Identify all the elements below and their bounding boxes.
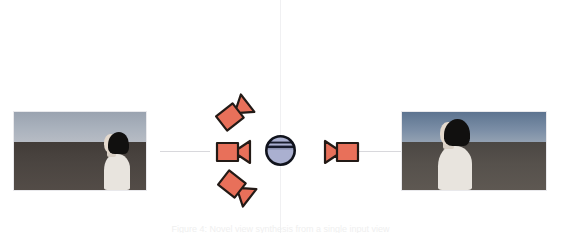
camera-top-left-icon[interactable] <box>211 90 258 135</box>
person-figure <box>98 118 142 190</box>
input-view-thumbnail <box>14 112 146 190</box>
person-hair <box>108 132 129 154</box>
figure-caption: Figure 4: Novel view synthesis from a si… <box>0 224 561 233</box>
camera-bottom-left-icon[interactable] <box>213 165 260 210</box>
vertical-divider <box>280 0 281 233</box>
person-hair <box>444 119 470 146</box>
figure-root: Figure 4: Novel view synthesis from a si… <box>0 0 561 233</box>
person-body <box>104 154 130 190</box>
person-body <box>438 146 472 190</box>
camera-middle-left-icon[interactable] <box>215 138 253 166</box>
person-figure <box>430 112 488 190</box>
camera-right-icon[interactable] <box>322 138 360 166</box>
scene-sphere-icon[interactable] <box>264 134 297 167</box>
output-view-thumbnail <box>402 112 546 190</box>
connector-line-right <box>355 151 403 152</box>
connector-line-left <box>160 151 210 152</box>
